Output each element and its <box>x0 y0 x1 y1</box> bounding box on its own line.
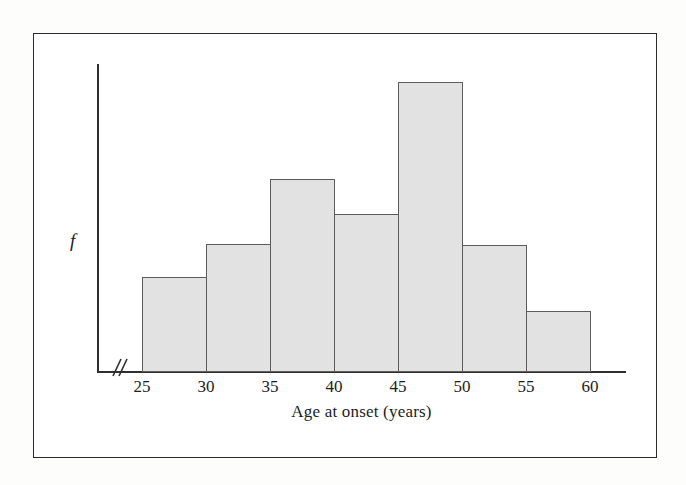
bar-25-30 <box>142 277 207 372</box>
x-tick-55: 55 <box>506 377 546 397</box>
figure-border-box: f 25 30 35 40 45 50 55 60 Age at ons <box>33 33 657 458</box>
plot-area: f 25 30 35 40 45 50 55 60 Age at ons <box>34 34 658 459</box>
bar-30-35 <box>206 244 271 372</box>
histogram-bars <box>142 64 598 372</box>
bar-40-45 <box>334 214 399 372</box>
x-tick-60: 60 <box>570 377 610 397</box>
figure-root: f 25 30 35 40 45 50 55 60 Age at ons <box>0 0 686 485</box>
x-tick-40: 40 <box>314 377 354 397</box>
bar-50-55 <box>462 245 527 372</box>
x-tick-45: 45 <box>378 377 418 397</box>
bar-55-60 <box>526 311 591 372</box>
bar-45-50 <box>398 82 463 372</box>
bar-35-40 <box>270 179 335 372</box>
x-axis-title: Age at onset (years) <box>97 402 626 422</box>
y-axis-label: f <box>70 230 75 252</box>
x-tick-50: 50 <box>442 377 482 397</box>
x-tick-25: 25 <box>122 377 162 397</box>
x-tick-35: 35 <box>250 377 290 397</box>
x-tick-30: 30 <box>186 377 226 397</box>
y-axis-line <box>97 64 99 372</box>
